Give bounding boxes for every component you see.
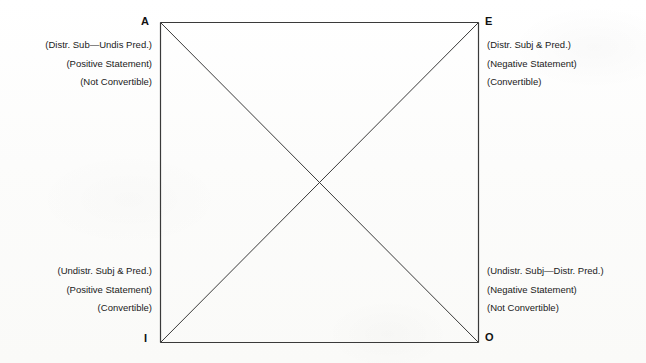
annotation-block-a: (Distr. Sub—Undis Pred.) (Positive State…: [45, 36, 152, 92]
vertex-label-o: O: [485, 332, 494, 343]
annotation-i-line-3: (Convertible): [57, 299, 152, 318]
annotation-o-line-3: (Not Convertible): [487, 299, 604, 318]
annotation-e-line-2: (Negative Statement): [487, 55, 577, 74]
annotation-e-line-3: (Convertible): [487, 73, 577, 92]
annotation-e-line-1: (Distr. Subj & Pred.): [487, 36, 577, 55]
annotation-o-line-2: (Negative Statement): [487, 281, 604, 300]
vertex-label-a: A: [141, 16, 149, 27]
annotation-i-line-1: (Undistr. Subj & Pred.): [57, 262, 152, 281]
square-of-opposition-figure: A E I O (Distr. Sub—Undis Pred.) (Positi…: [0, 0, 646, 363]
annotation-block-e: (Distr. Subj & Pred.) (Negative Statemen…: [487, 36, 577, 92]
annotation-i-line-2: (Positive Statement): [57, 281, 152, 300]
annotation-block-i: (Undistr. Subj & Pred.) (Positive Statem…: [57, 262, 152, 318]
vertex-label-e: E: [485, 16, 493, 27]
vertex-label-i: I: [144, 333, 147, 344]
annotation-o-line-1: (Undistr. Subj—Distr. Pred.): [487, 262, 604, 281]
annotation-a-line-2: (Positive Statement): [45, 55, 152, 74]
annotation-block-o: (Undistr. Subj—Distr. Pred.) (Negative S…: [487, 262, 604, 318]
annotation-a-line-1: (Distr. Sub—Undis Pred.): [45, 36, 152, 55]
annotation-a-line-3: (Not Convertible): [45, 73, 152, 92]
